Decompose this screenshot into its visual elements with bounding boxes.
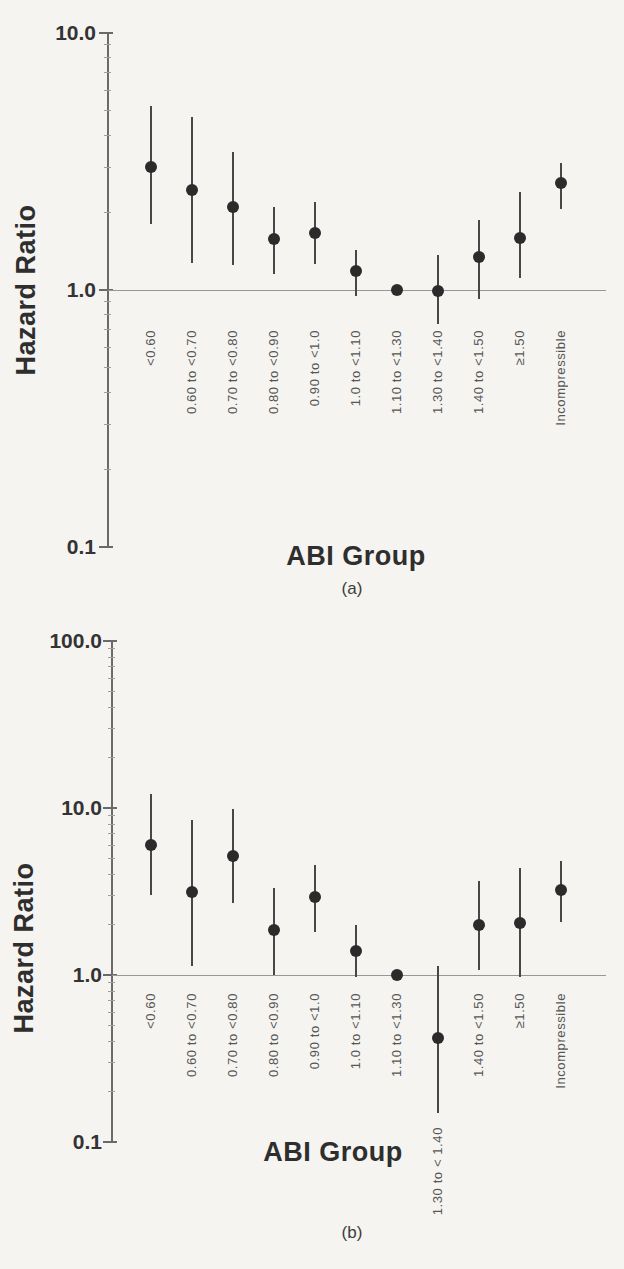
y-axis-minor-tick (108, 707, 115, 708)
y-axis-minor-tick (108, 845, 115, 846)
category-label: 1.30 to <1.40 (430, 330, 446, 414)
y-axis-minor-tick (104, 314, 111, 315)
y-tick-label: 10.0 (6, 20, 96, 46)
category-label: Incompressible (553, 993, 569, 1089)
y-axis-minor-tick (104, 90, 111, 91)
y-axis-minor-tick (104, 212, 111, 213)
y-axis-minor-tick (108, 691, 115, 692)
category-label: ≥1.50 (512, 330, 528, 365)
y-axis-minor-tick (104, 57, 111, 58)
category-label: 1.10 to <1.30 (389, 330, 405, 414)
category-label: 1.40 to <1.50 (471, 330, 487, 414)
y-axis-minor-tick (108, 858, 115, 859)
hazard-ratio-point (227, 850, 239, 862)
hazard-ratio-point (391, 969, 403, 981)
y-axis-minor-tick (104, 44, 111, 45)
category-label: 0.80 to <0.90 (266, 330, 282, 414)
hazard-ratio-point (473, 251, 485, 263)
y-axis-minor-tick (104, 469, 111, 470)
figure-page: Hazard Ratio ABI Group (a) 10.01.00.1<0.… (0, 0, 624, 1269)
y-axis-minor-tick (104, 347, 111, 348)
hazard-ratio-point (432, 285, 444, 297)
y-axis-minor-tick (108, 833, 115, 834)
y-tick-label: 0.1 (12, 1129, 102, 1155)
hazard-ratio-point (186, 184, 198, 196)
category-label: 1.0 to <1.10 (348, 330, 364, 406)
y-axis-minor-tick (108, 1012, 115, 1013)
hazard-ratio-point (391, 284, 403, 296)
y-axis-tick (99, 546, 113, 548)
category-label: 0.70 to <0.80 (225, 993, 241, 1077)
y-tick-label: 0.1 (6, 534, 96, 560)
category-label: 0.90 to <1.0 (307, 993, 323, 1069)
y-axis-minor-tick (104, 72, 111, 73)
category-label: 0.60 to <0.70 (184, 330, 200, 414)
hazard-ratio-point (309, 891, 321, 903)
y-axis-minor-tick (104, 301, 111, 302)
y-axis-minor-tick (108, 824, 115, 825)
y-axis-minor-tick (108, 815, 115, 816)
y-axis-minor-tick (108, 991, 115, 992)
y-tick-label: 100.0 (12, 628, 102, 654)
category-label: 1.30 to < 1.40 (430, 1127, 446, 1215)
hazard-ratio-point (514, 917, 526, 929)
hazard-ratio-point (268, 233, 280, 245)
y-axis-minor-tick (108, 1041, 115, 1042)
hazard-ratio-point (514, 232, 526, 244)
category-label: 0.60 to <0.70 (184, 993, 200, 1077)
y-axis-minor-tick (104, 329, 111, 330)
y-axis-minor-tick (104, 110, 111, 111)
category-label: 0.80 to <0.90 (266, 993, 282, 1077)
category-label: 1.0 to <1.10 (348, 993, 364, 1069)
y-axis-minor-tick (108, 1025, 115, 1026)
hazard-ratio-point (555, 884, 567, 896)
hazard-ratio-point (309, 227, 321, 239)
y-axis-minor-tick (108, 666, 115, 667)
y-axis-minor-tick (108, 678, 115, 679)
y-axis-minor-tick (108, 924, 115, 925)
hazard-ratio-point (473, 919, 485, 931)
y-axis-minor-tick (108, 1091, 115, 1092)
y-tick-label: 1.0 (6, 277, 96, 303)
y-axis-minor-tick (108, 728, 115, 729)
y-axis-minor-tick (104, 135, 111, 136)
category-label: Incompressible (553, 330, 569, 426)
y-axis-minor-tick (108, 1062, 115, 1063)
category-label: <0.60 (143, 330, 159, 366)
hazard-ratio-point (555, 177, 567, 189)
category-label: 0.90 to <1.0 (307, 330, 323, 406)
hazard-ratio-point (186, 886, 198, 898)
x-axis-title: ABI Group (263, 1137, 403, 1168)
reference-line (112, 975, 606, 976)
category-label: <0.60 (143, 993, 159, 1029)
reference-line (108, 290, 606, 291)
y-axis-tick (103, 807, 117, 809)
y-axis-minor-tick (108, 982, 115, 983)
y-axis-minor-tick (108, 1000, 115, 1001)
hazard-ratio-point (350, 265, 362, 277)
y-tick-label: 10.0 (12, 795, 102, 821)
y-axis-minor-tick (108, 895, 115, 896)
panel-caption: (b) (342, 1223, 363, 1243)
y-axis-minor-tick (104, 424, 111, 425)
category-label: 1.40 to <1.50 (471, 993, 487, 1077)
hazard-ratio-point (350, 945, 362, 957)
y-axis-tick (103, 1141, 117, 1143)
hazard-ratio-point (227, 201, 239, 213)
panel-caption: (a) (342, 579, 363, 599)
hazard-ratio-point (145, 839, 157, 851)
y-axis-title: Hazard Ratio (9, 862, 40, 1033)
category-label: 0.70 to <0.80 (225, 330, 241, 414)
y-axis-minor-tick (104, 167, 111, 168)
hazard-ratio-point (432, 1032, 444, 1044)
hazard-ratio-point (268, 924, 280, 936)
y-axis-tick (103, 640, 117, 642)
y-axis-line (111, 641, 113, 1142)
category-label: ≥1.50 (512, 993, 528, 1028)
category-label: 1.10 to <1.30 (389, 993, 405, 1077)
y-axis-minor-tick (104, 392, 111, 393)
y-axis-minor-tick (108, 757, 115, 758)
y-tick-label: 1.0 (12, 962, 102, 988)
y-axis-tick (99, 32, 113, 34)
y-axis-minor-tick (108, 648, 115, 649)
